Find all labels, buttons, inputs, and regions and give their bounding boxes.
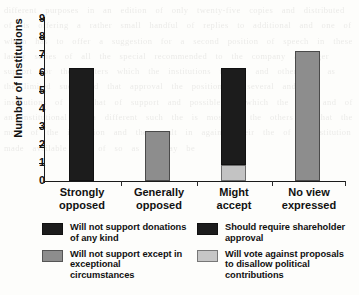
bar-segment-light [221, 165, 246, 181]
y-tick-label-1: 1 [21, 157, 45, 168]
legend-swatch-dark [197, 223, 218, 235]
y-tick-label-9: 9 [21, 13, 45, 24]
bar-segment-dark [221, 68, 246, 165]
x-category-label-might-accept: Might accept [191, 186, 277, 211]
legend-column-right: Should require shareholder approval Will… [197, 222, 355, 286]
legend-line-3: contributions [225, 270, 284, 280]
x-category-label-generally-opposed: Generally opposed [116, 186, 202, 211]
y-tick-label-0: 0 [21, 175, 45, 186]
chart-legend: Will not support donations of any kind W… [0, 222, 359, 295]
y-tick-label-2: 2 [21, 139, 45, 150]
legend-label: Will vote against proposals to disallow … [225, 249, 344, 281]
legend-column-left: Will not support donations of any kind W… [42, 222, 187, 286]
bar-segment-mid [145, 131, 170, 181]
category-line-2: expressed [266, 199, 352, 212]
plot-area [45, 19, 345, 181]
x-category-label-strongly-opposed: Strongly opposed [39, 186, 125, 211]
category-line-2: accept [191, 199, 277, 212]
category-line-2: opposed [116, 199, 202, 212]
y-tick-label-4: 4 [21, 103, 45, 114]
legend-item-will-vote-against-proposals: Will vote against proposals to disallow … [197, 249, 355, 281]
legend-item-should-require-shareholder-approval: Should require shareholder approval [197, 222, 355, 244]
legend-line-1: Will vote against proposals [225, 249, 344, 259]
y-tick-label-3: 3 [21, 121, 45, 132]
y-axis-title: Number of Institutions [12, 3, 24, 153]
legend-swatch-mid [42, 250, 63, 262]
legend-line-1: Should require shareholder [225, 222, 345, 232]
category-line-1: Strongly [39, 186, 125, 199]
bar-might-accept [221, 68, 246, 181]
legend-line-1: Will not support except in [70, 249, 182, 259]
legend-item-will-not-support-donations: Will not support donations of any kind [42, 222, 187, 244]
y-tick-label-7: 7 [21, 49, 45, 60]
legend-swatch-dark [42, 223, 63, 235]
y-tick-label-8: 8 [21, 31, 45, 42]
legend-swatch-light [197, 250, 218, 262]
category-line-1: Generally [116, 186, 202, 199]
legend-label: Will not support donations of any kind [70, 222, 186, 244]
legend-line-2: approval [225, 233, 263, 243]
bar-segment-dark [69, 68, 94, 181]
y-tick-label-5: 5 [21, 85, 45, 96]
legend-item-will-not-support-except: Will not support except in exceptional c… [42, 249, 187, 281]
legend-line-1: Will not support donations [70, 222, 186, 232]
legend-line-2: exceptional circumstances [70, 259, 134, 280]
legend-line-2: to disallow political [225, 259, 310, 269]
category-line-2: opposed [39, 199, 125, 212]
bar-segment-mid [295, 51, 320, 181]
bar-no-view-expressed [295, 51, 320, 181]
chart-figure: different purposes in an edition of only… [0, 0, 359, 295]
y-tick-label-6: 6 [21, 67, 45, 78]
legend-line-2: of any kind [70, 233, 119, 243]
bar-strongly-opposed [69, 68, 94, 181]
x-axis-line [44, 181, 346, 182]
x-category-label-no-view-expressed: No view expressed [266, 186, 352, 211]
category-line-1: Might [191, 186, 277, 199]
legend-label: Should require shareholder approval [225, 222, 345, 244]
legend-label: Will not support except in exceptional c… [70, 249, 187, 281]
category-line-1: No view [266, 186, 352, 199]
bar-generally-opposed [145, 131, 170, 181]
